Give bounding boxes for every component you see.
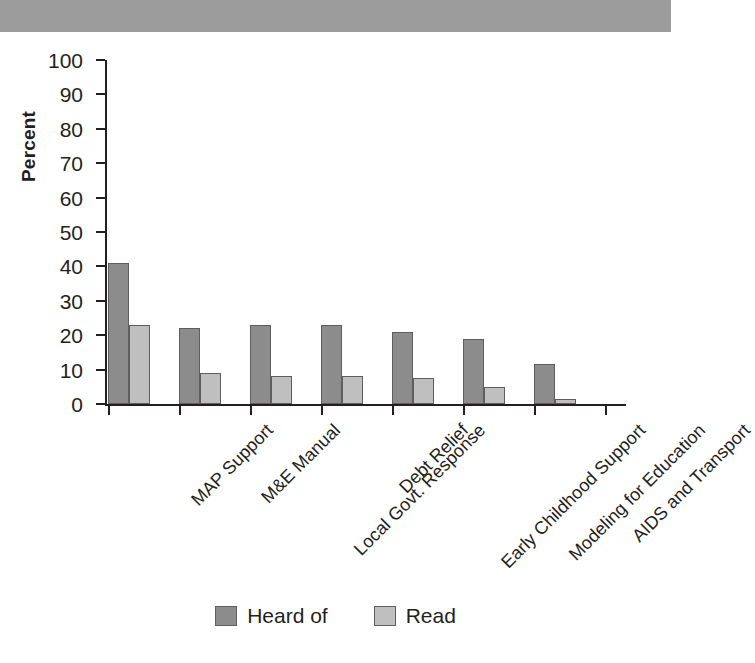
- y-axis-tick: 70: [96, 162, 105, 164]
- y-axis-tick: 80: [96, 128, 105, 130]
- bar-1-1: [200, 373, 221, 404]
- y-axis-tick: 20: [96, 334, 105, 336]
- y-axis-tick-label: 90: [60, 84, 83, 105]
- legend-label: Heard of: [247, 604, 328, 628]
- x-axis-tick: [392, 406, 394, 415]
- y-axis-tick: 100: [96, 59, 105, 61]
- x-axis-tick: [534, 406, 536, 415]
- y-axis-tick-label: 30: [60, 290, 83, 311]
- bar-chart: Percent 0102030405060708090100 MAP Suppo…: [0, 32, 671, 663]
- y-axis-tick: 90: [96, 93, 105, 95]
- bar-1-6: [555, 399, 576, 404]
- y-axis-line: [105, 60, 107, 404]
- bar-0-0: [108, 263, 129, 404]
- y-axis-tick-label: 40: [60, 256, 83, 277]
- x-axis-tick: [250, 406, 252, 415]
- bar-1-3: [342, 376, 363, 404]
- x-axis-tick: [605, 406, 607, 415]
- bar-1-5: [484, 387, 505, 404]
- bar-1-0: [129, 325, 150, 404]
- y-axis-tick-label: 50: [60, 222, 83, 243]
- y-axis-tick-label: 80: [60, 118, 83, 139]
- bar-0-1: [179, 328, 200, 404]
- y-axis-tick: 30: [96, 300, 105, 302]
- bar-0-3: [321, 325, 342, 404]
- bar-1-2: [271, 376, 292, 404]
- bar-0-6: [534, 364, 555, 404]
- x-axis-tick: [463, 406, 465, 415]
- x-axis-category-label: Local Govt. Response: [350, 420, 490, 560]
- bar-0-4: [392, 332, 413, 404]
- y-axis-tick-label: 20: [60, 325, 83, 346]
- x-axis-tick: [108, 406, 110, 415]
- x-axis-tick: [179, 406, 181, 415]
- top-gray-band: [0, 0, 671, 32]
- y-axis-title: Percent: [18, 111, 40, 182]
- y-axis-tick: 50: [96, 231, 105, 233]
- y-axis-tick: 10: [96, 369, 105, 371]
- y-axis-tick: 0: [96, 403, 105, 405]
- legend-entry-0: Heard of: [215, 604, 328, 628]
- bar-0-2: [250, 325, 271, 404]
- legend-label: Read: [406, 604, 456, 628]
- legend-swatch-icon: [215, 606, 237, 626]
- plot-area: 0102030405060708090100 MAP SupportM&E Ma…: [105, 60, 625, 404]
- x-axis-tick: [321, 406, 323, 415]
- bar-0-5: [463, 339, 484, 404]
- bar-1-4: [413, 378, 434, 404]
- y-axis-tick: 40: [96, 265, 105, 267]
- y-axis-tick-label: 100: [48, 50, 83, 71]
- y-axis-tick-label: 10: [60, 359, 83, 380]
- legend-swatch-icon: [374, 606, 396, 626]
- legend-entry-1: Read: [374, 604, 456, 628]
- y-axis-tick: 60: [96, 197, 105, 199]
- y-axis-tick-label: 60: [60, 187, 83, 208]
- y-axis-tick-label: 70: [60, 153, 83, 174]
- x-axis-line: [105, 404, 626, 406]
- y-axis-tick-label: 0: [71, 394, 83, 415]
- chart-legend: Heard ofRead: [0, 604, 671, 628]
